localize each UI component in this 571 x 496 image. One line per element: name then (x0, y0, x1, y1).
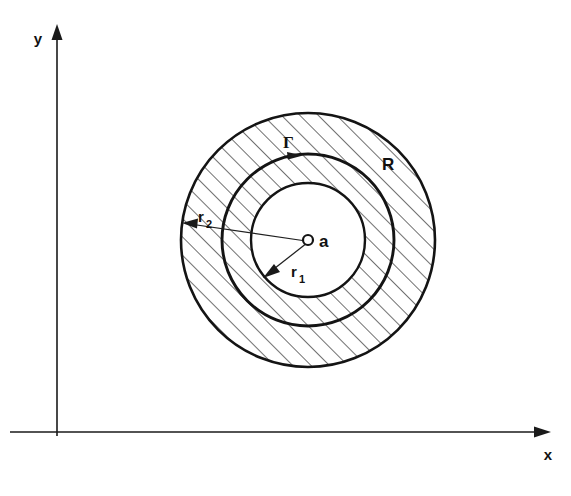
r2-label-base: r (198, 208, 204, 225)
diagram-canvas: y x a r 2 r 1 Γ R (0, 0, 571, 496)
r1-label-base: r (291, 263, 297, 280)
r2-label-subscript: 2 (206, 218, 212, 230)
hatched-regions (0, 0, 571, 496)
figure-root: y x a r 2 r 1 Γ R (0, 0, 571, 496)
middle-annulus-hatch (0, 0, 571, 496)
x-axis-label: x (544, 446, 553, 463)
region-label: R (382, 155, 394, 174)
r1-label-subscript: 1 (299, 273, 305, 285)
center-point-marker (303, 235, 313, 245)
gamma-label: Γ (283, 133, 294, 152)
y-axis-label: y (34, 30, 43, 47)
center-label: a (319, 232, 329, 251)
